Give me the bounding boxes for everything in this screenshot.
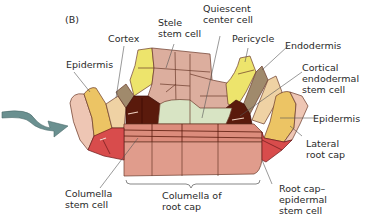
label-pericycle: Pericycle (232, 33, 274, 44)
label-columella-of-root-cap: Columella of root cap (162, 190, 221, 212)
label-root-cap-epidermal-stem-cell: Root cap– epidermal stem cell (279, 183, 327, 216)
columella-bracket (126, 180, 260, 188)
label-lateral-root-cap: Lateral root cap (306, 138, 345, 160)
label-cortex: Cortex (108, 33, 139, 44)
cell-columella-stem (124, 124, 262, 142)
panel-label: (B) (65, 14, 79, 25)
label-epidermis-right: Epidermis (313, 113, 360, 124)
label-stele-stem-cell: Stele stem cell (158, 17, 201, 39)
arrow-icon (2, 111, 68, 137)
label-columella-stem-cell: Columella stem cell (65, 188, 112, 210)
label-epidermis-left: Epidermis (66, 59, 113, 70)
label-endodermis: Endodermis (285, 40, 341, 51)
label-cortical-endodermal-stem-cell: Cortical endodermal stem cell (302, 62, 359, 95)
label-quiescent-center-cell: Quiescent center cell (203, 3, 253, 25)
cell-columella-root-cap (124, 142, 262, 176)
cell-initials-left (126, 96, 160, 124)
